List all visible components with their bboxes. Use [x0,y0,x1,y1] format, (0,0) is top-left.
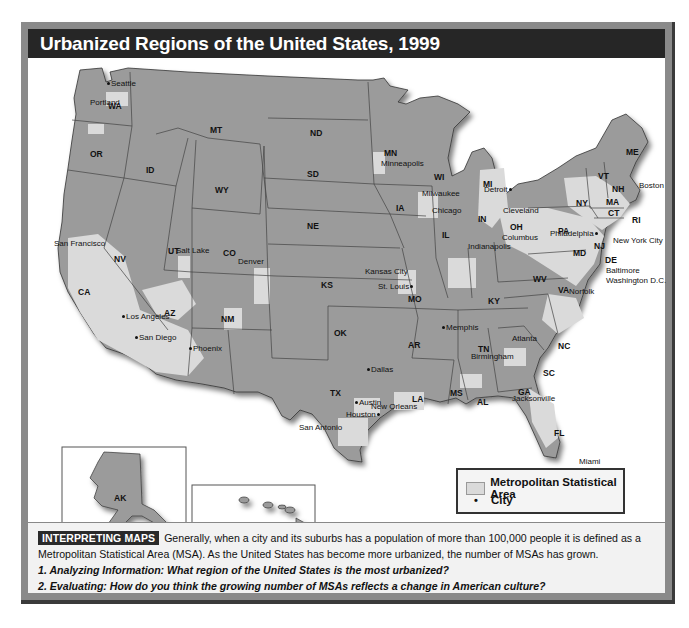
state-label: NV [114,254,126,264]
state-label: IA [396,203,405,213]
state-label: MA [606,197,619,207]
city-dot-icon [377,413,380,416]
state-label: NM [221,314,234,324]
state-label: MS [450,388,463,398]
state-label: SC [543,368,555,378]
state-label: SD [307,169,319,179]
city-label: Denver [238,257,264,266]
state-label: RI [632,215,641,225]
question-1: 1. Analyzing Information: What region of… [38,562,655,578]
city-label: Atlanta [512,334,537,343]
state-label: VT [598,171,609,181]
map-title: Urbanized Regions of the United States, … [28,29,665,58]
state-label: WI [434,172,444,182]
map-area: WA OR CA ID NV MT WY UT AZ CO NM ND SD N… [28,58,665,523]
city-label: Philadelphia [550,229,599,238]
city-label: Detroit [484,185,513,194]
state-label: FL [554,428,564,438]
state-label: VA [558,285,569,295]
city-label: Miami [579,457,600,466]
hawaii-inset [192,485,315,522]
state-label: OK [334,328,347,338]
city-label: San Francisco [54,239,105,248]
state-label: MO [408,294,422,304]
state-label: ID [146,165,155,175]
state-label: NJ [594,241,605,251]
city-label: Cleveland [503,206,539,215]
state-label: NY [576,198,588,208]
city-label: Boston [639,181,664,190]
city-dot-icon [189,347,192,350]
city-label: Dallas [366,365,393,374]
state-label: AL [477,397,488,407]
city-label: Baltimore [606,266,640,275]
state-label: WY [215,185,229,195]
city-label: Minneapolis [381,159,424,168]
state-label: OH [510,222,523,232]
city-label: Jacksonville [512,394,555,403]
state-label: NE [307,221,319,231]
map-frame: Urbanized Regions of the United States, … [21,22,675,604]
state-label: CT [608,208,619,218]
city-label: Kansas City [365,267,408,276]
city-label: Columbus [502,233,538,242]
state-label: NH [612,184,624,194]
city-label: St. Louis [378,282,414,291]
state-label: TX [330,388,341,398]
city-dot-icon [135,336,138,339]
state-label: ME [626,147,639,157]
city-label: Salt Lake [176,246,209,255]
city-label: Los Angeles [121,312,170,321]
state-label: WV [533,274,547,284]
city-dot-icon [442,326,445,329]
state-label: MT [210,125,222,135]
question-2: 2. Evaluating: How do you think the grow… [38,578,655,594]
city-label: Portland [90,98,120,107]
caption-paragraph: INTERPRETING MAPSGenerally, when a city … [38,530,655,562]
map-panel: Urbanized Regions of the United States, … [28,29,665,593]
state-label: IN [478,214,487,224]
state-label: NC [558,341,570,351]
state-label: IL [442,230,450,240]
legend-item-city: • City [466,494,513,506]
city-label: Houston [346,410,381,419]
city-label: San Antonio [299,423,342,432]
city-label: New York City [613,236,663,245]
city-dot-icon [107,82,110,85]
interpreting-maps-badge: INTERPRETING MAPS [38,531,159,545]
city-label: Norfolk [569,287,594,296]
map-legend: Metropolitan Statistical Area • City [456,468,625,514]
state-label: AK [114,493,126,503]
city-label: Indianapolis [468,242,511,251]
city-label: Phoenix [188,344,222,353]
city-dot-icon [122,315,125,318]
state-label: DE [605,255,617,265]
state-label: KS [321,280,333,290]
msa-swatch-icon [466,482,485,495]
state-label: MN [384,148,397,158]
city-label: Birmingham [471,352,514,361]
state-label: CA [78,287,90,297]
city-dot-icon [410,285,413,288]
state-label: OR [90,149,103,159]
interpreting-maps-caption: INTERPRETING MAPSGenerally, when a city … [28,523,665,593]
state-label: CO [223,248,236,258]
city-dot-icon: • [466,494,486,506]
city-label: San Diego [134,333,176,342]
city-label: Seattle [106,79,136,88]
city-dot-icon [355,401,358,404]
state-label: AR [408,340,420,350]
state-label: KY [488,296,500,306]
city-label: Washington D.C. [606,276,666,285]
city-label: Memphis [441,323,478,332]
city-label: Chicago [432,206,461,215]
city-label: Milwaukee [422,189,460,198]
city-dot-icon [595,232,598,235]
city-dot-icon [367,368,370,371]
city-dot-icon [509,188,512,191]
city-label: New Orleans [371,402,417,411]
state-label: MD [573,248,586,258]
state-label: ND [310,128,322,138]
